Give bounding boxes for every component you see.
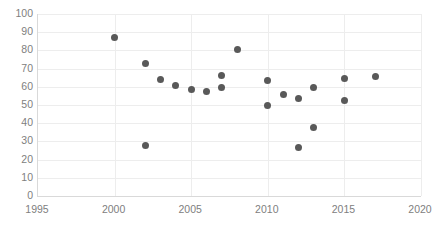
data-point[interactable] [172,82,179,89]
y-axis-tick-label: 60 [3,81,33,92]
y-axis-tick-label: 80 [3,44,33,55]
data-point[interactable] [341,75,348,82]
data-point[interactable] [142,142,149,149]
gridline-horizontal [38,69,421,70]
data-point[interactable] [310,84,317,91]
x-axis-tick-label: 2020 [397,203,438,215]
data-point[interactable] [203,88,210,95]
data-point[interactable] [264,77,271,84]
data-point[interactable] [142,60,149,67]
data-point[interactable] [234,46,241,53]
chart-title [0,0,438,4]
y-axis-tick-label: 10 [3,172,33,183]
y-axis-tick-label: 50 [3,99,33,110]
gridline-vertical [115,14,116,196]
data-point[interactable] [218,72,225,79]
y-axis-tick-label: 40 [3,117,33,128]
plot-area [37,14,421,197]
data-point[interactable] [341,97,348,104]
scatter-chart: 0102030405060708090100 19952000200520102… [0,0,438,225]
y-axis-tick-label: 30 [3,135,33,146]
data-point[interactable] [188,86,195,93]
gridline-horizontal [38,160,421,161]
data-point[interactable] [280,91,287,98]
y-axis-labels: 0102030405060708090100 [0,0,33,225]
y-axis-tick-label: 0 [3,190,33,201]
gridline-horizontal [38,123,421,124]
data-point[interactable] [218,84,225,91]
y-axis-tick-label: 90 [3,26,33,37]
data-point[interactable] [310,124,317,131]
data-point[interactable] [264,102,271,109]
data-point[interactable] [372,73,379,80]
data-point[interactable] [111,34,118,41]
gridline-horizontal [38,32,421,33]
y-axis-tick-label: 70 [3,63,33,74]
gridline-horizontal [38,178,421,179]
x-axis-tick-label: 2010 [244,203,290,215]
data-point[interactable] [295,144,302,151]
gridline-vertical [191,14,192,196]
x-axis-tick-label: 2005 [167,203,213,215]
gridline-vertical [421,14,422,196]
gridline-vertical [344,14,345,196]
gridline-horizontal [38,50,421,51]
data-point[interactable] [295,95,302,102]
data-point[interactable] [157,76,164,83]
gridline-horizontal [38,105,421,106]
y-axis-tick-label: 100 [3,8,33,19]
x-axis-tick-label: 1995 [14,203,60,215]
gridline-horizontal [38,141,421,142]
gridline-horizontal [38,14,421,15]
x-axis-tick-label: 2000 [91,203,137,215]
y-axis-tick-label: 20 [3,154,33,165]
gridline-horizontal [38,87,421,88]
x-axis-tick-label: 2015 [320,203,366,215]
